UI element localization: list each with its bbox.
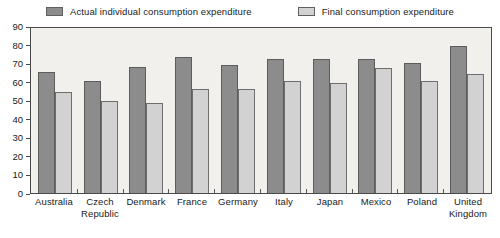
- x-axis-label-line: Australia: [31, 196, 77, 208]
- bar-group: [215, 29, 261, 193]
- bar-series-1: [192, 89, 209, 194]
- x-axis-label: Germany: [215, 196, 261, 220]
- bar-series-1: [421, 81, 438, 193]
- bar-series-0: [404, 63, 421, 193]
- bar-series-1: [284, 81, 301, 193]
- bar-group: [169, 29, 215, 193]
- bar-chart: Actual individual consumption expenditur…: [0, 0, 500, 238]
- bar-series-0: [221, 65, 238, 193]
- bar-series-1: [146, 103, 163, 193]
- bar-series-0: [313, 59, 330, 193]
- legend-label-series-0: Actual individual consumption expenditur…: [70, 6, 252, 17]
- x-axis-label-line: Denmark: [123, 196, 169, 208]
- x-axis-label: France: [169, 196, 215, 220]
- y-axis-tick-label: 60: [12, 77, 23, 88]
- x-axis-label-line: Japan: [307, 196, 353, 208]
- x-axis-label-line: Kingdom: [445, 208, 491, 220]
- x-axis-label-line: Republic: [77, 208, 123, 220]
- bar-series-1: [101, 101, 118, 193]
- legend-item-actual-individual-consumption-expenditure: Actual individual consumption expenditur…: [46, 6, 252, 17]
- y-axis-tick-label: 40: [12, 114, 23, 125]
- x-axis-label-line: Poland: [399, 196, 445, 208]
- y-axis-tick-label: 80: [12, 40, 23, 51]
- bar-series-0: [450, 46, 467, 193]
- x-axis-label: Denmark: [123, 196, 169, 220]
- bar-series-1: [467, 74, 484, 193]
- bar-series-0: [358, 59, 375, 193]
- legend-swatch-icon-series-1: [298, 7, 315, 16]
- x-axis-label: Australia: [31, 196, 77, 220]
- y-axis-tick-label: 0: [18, 188, 23, 199]
- bar-series-1: [375, 68, 392, 193]
- bar-group: [398, 29, 444, 193]
- x-axis-label: Poland: [399, 196, 445, 220]
- x-axis-label-line: Mexico: [353, 196, 399, 208]
- bar-group: [78, 29, 124, 193]
- bar-series-1: [330, 83, 347, 193]
- y-axis: 9080706050403020100: [0, 27, 30, 194]
- bar-series-1: [55, 92, 72, 193]
- bar-series-0: [38, 72, 55, 193]
- bar-groups: [32, 29, 490, 193]
- bar-series-1: [238, 89, 255, 194]
- bar-group: [124, 29, 170, 193]
- x-axis-label: Japan: [307, 196, 353, 220]
- legend-item-final-consumption-expenditure: Final consumption expenditure: [298, 6, 454, 17]
- legend-label-series-1: Final consumption expenditure: [322, 6, 454, 17]
- chart-legend: Actual individual consumption expenditur…: [0, 0, 500, 22]
- y-axis-tick-label: 70: [12, 58, 23, 69]
- y-axis-tick-label: 10: [12, 169, 23, 180]
- bar-group: [32, 29, 78, 193]
- bar-group: [307, 29, 353, 193]
- y-axis-tick-label: 30: [12, 132, 23, 143]
- x-axis-label-line: United: [445, 196, 491, 208]
- plot-area: [30, 27, 492, 194]
- bar-group: [261, 29, 307, 193]
- bar-group: [444, 29, 490, 193]
- x-axis-labels: AustraliaCzechRepublicDenmarkFranceGerma…: [31, 196, 491, 220]
- bar-series-0: [129, 67, 146, 194]
- x-axis-label-line: France: [169, 196, 215, 208]
- x-axis-label-line: Italy: [261, 196, 307, 208]
- x-axis-label: CzechRepublic: [77, 196, 123, 220]
- y-axis-tick-label: 20: [12, 151, 23, 162]
- x-axis-label-line: Czech: [77, 196, 123, 208]
- x-axis-label: UnitedKingdom: [445, 196, 491, 220]
- bar-series-0: [84, 81, 101, 193]
- legend-swatch-icon-series-0: [46, 7, 63, 16]
- bar-group: [353, 29, 399, 193]
- y-axis-tick-label: 90: [12, 21, 23, 32]
- bar-series-0: [267, 59, 284, 193]
- x-axis-label: Mexico: [353, 196, 399, 220]
- y-axis-tick-label: 50: [12, 95, 23, 106]
- x-axis-label: Italy: [261, 196, 307, 220]
- x-axis-label-line: Germany: [215, 196, 261, 208]
- bar-series-0: [175, 57, 192, 193]
